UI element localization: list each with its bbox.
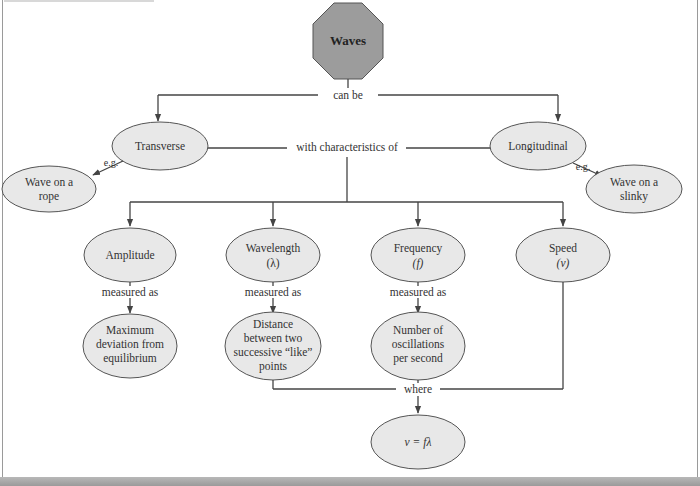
frequency-symbol: (f) [413, 257, 424, 270]
rope-line-1: Wave on a [25, 176, 73, 188]
speed-label: Speed [549, 242, 577, 255]
label-measured-as-amplitude: measured as [102, 286, 159, 298]
amplitude-label: Amplitude [105, 249, 154, 262]
connector-can-be: can be [158, 79, 558, 121]
wavelength-desc-1: Distance [253, 318, 293, 330]
speed-symbol: (v) [557, 257, 570, 270]
label-measured-as-frequency: measured as [390, 286, 447, 298]
node-transverse: Transverse [112, 122, 208, 170]
connector-measured-as: measured as measured as measured as [102, 282, 447, 313]
wavelength-desc-2: between two [244, 332, 303, 344]
frequency-desc-1: Number of [393, 324, 443, 336]
wavelength-label: Wavelength [246, 242, 301, 255]
wavelength-symbol: (λ) [266, 257, 279, 270]
wavelength-desc-4: points [259, 360, 288, 373]
label-with-characteristics-of: with characteristics of [296, 141, 398, 153]
node-amplitude: Amplitude [84, 228, 176, 282]
label-eg-longitudinal: e.g. [576, 161, 590, 172]
frequency-label: Frequency [394, 242, 443, 255]
root-node-waves: Waves [313, 3, 383, 79]
node-maximum-deviation: Maximum deviation from equilibrium [83, 314, 177, 378]
concept-map: Waves can be Transverse Longitudinal wit… [0, 0, 700, 486]
node-wavelength: Wavelength (λ) [226, 228, 320, 282]
frequency-desc-2: oscillations [392, 338, 445, 350]
node-wave-on-slinky: Wave on a slinky [586, 165, 682, 213]
label-can-be: can be [333, 89, 363, 101]
amplitude-desc-3: equilibrium [103, 352, 157, 365]
equation-label: v = fλ [405, 436, 432, 449]
node-equation: v = fλ [371, 415, 465, 469]
longitudinal-label: Longitudinal [508, 140, 567, 153]
node-distance-between: Distance between two successive “like” p… [225, 312, 321, 380]
label-where: where [404, 383, 432, 395]
rope-line-2: rope [39, 190, 59, 203]
root-label: Waves [330, 33, 366, 48]
node-frequency: Frequency (f) [371, 228, 465, 282]
amplitude-desc-1: Maximum [106, 324, 154, 336]
frequency-desc-3: per second [393, 352, 443, 365]
node-wave-on-rope: Wave on a rope [2, 166, 96, 212]
wavelength-desc-3: successive “like” [234, 346, 313, 358]
node-longitudinal: Longitudinal [490, 122, 586, 170]
slinky-line-2: slinky [620, 190, 648, 203]
transverse-label: Transverse [135, 140, 185, 152]
connector-eg-transverse: e.g. [93, 157, 123, 175]
amplitude-desc-2: deviation from [96, 338, 164, 350]
node-number-of-oscillations: Number of oscillations per second [371, 312, 465, 380]
label-eg-transverse: e.g. [104, 157, 118, 168]
label-measured-as-wavelength: measured as [245, 286, 302, 298]
node-speed: Speed (v) [516, 228, 610, 282]
slinky-line-1: Wave on a [610, 176, 658, 188]
